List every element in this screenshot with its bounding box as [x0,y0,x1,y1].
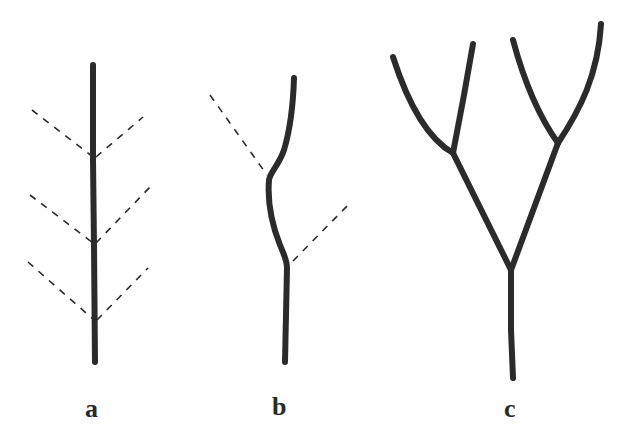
panel-a-main-stem [93,65,95,362]
panel-a-lateral-right-1 [96,117,143,157]
panel-c-dichotomous [393,24,601,378]
diagram-svg [0,0,626,434]
panel-b-lateral-right [293,202,351,261]
panel-c-label: c [504,396,516,422]
panel-c-right-outer-twig [558,24,601,143]
branching-diagram: a b c [0,0,626,434]
panel-a-lateral-left-1 [32,110,93,157]
panel-a-lateral-left-3 [28,262,94,320]
panel-c-trunk [511,270,513,378]
panel-b-lateral-left [210,95,267,175]
panel-a-lateral-right-3 [97,268,148,320]
panel-c-left-outer-twig [393,57,453,153]
panel-b-sympodial [210,78,351,362]
panel-a-lateral-left-2 [30,195,93,243]
panel-c-right-branch [511,143,558,270]
panel-b-main-stem [269,78,294,362]
panel-a-monopodial [28,65,150,362]
panel-a-label: a [85,396,98,422]
panel-c-left-inner-twig [453,44,473,153]
panel-c-left-branch [453,153,511,270]
panel-c-right-inner-twig [513,40,558,143]
panel-b-label: b [272,394,286,420]
panel-a-lateral-right-2 [96,187,150,243]
